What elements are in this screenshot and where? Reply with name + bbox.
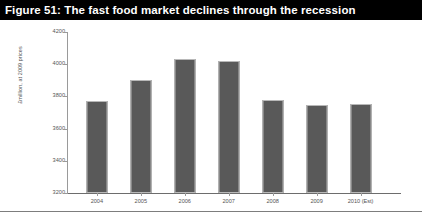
plot-bars (67, 32, 401, 193)
bar-slot (251, 32, 295, 193)
x-tick-mark (185, 193, 186, 196)
x-tick-mark (361, 193, 362, 196)
y-axis-title: £million, at 2009 prices (17, 27, 23, 123)
y-tick-label: 3200 (0, 188, 65, 197)
x-axis-line (67, 193, 401, 194)
bar-slot (339, 32, 383, 193)
bar (218, 61, 239, 193)
x-tick-label: 2007 (207, 196, 251, 206)
figure-title: Figure 51: The fast food market declines… (0, 4, 356, 16)
bar-slot (119, 32, 163, 193)
x-tick-mark (97, 193, 98, 196)
figure-container: Figure 51: The fast food market declines… (0, 0, 422, 218)
x-tick-label: 2009 (295, 196, 339, 206)
x-tick-mark (141, 193, 142, 196)
figure-title-band: Figure 51: The fast food market declines… (0, 0, 422, 20)
bar (262, 100, 283, 193)
x-tick-mark (229, 193, 230, 196)
x-tick-label: 2010 (Est) (339, 196, 383, 206)
bar-slot (295, 32, 339, 193)
bar-slot (207, 32, 251, 193)
bar (306, 105, 327, 193)
bar (130, 80, 151, 193)
bar (86, 101, 107, 193)
x-tick-mark (317, 193, 318, 196)
x-tick-label: 2005 (119, 196, 163, 206)
chart-area: £million, at 2009 prices 320034003600380… (0, 20, 422, 208)
y-tick-label: 3400 (0, 156, 65, 165)
y-tick-label: 4200 (0, 27, 65, 36)
bar-slot (75, 32, 119, 193)
x-tick-label: 2004 (75, 196, 119, 206)
x-tick-label: 2006 (163, 196, 207, 206)
bar (174, 59, 195, 193)
x-tick-mark (273, 193, 274, 196)
bar (350, 104, 371, 193)
x-tick-label: 2008 (251, 196, 295, 206)
bottom-rule (0, 211, 422, 212)
y-tick-label: 3800 (0, 91, 65, 100)
bar-slot (163, 32, 207, 193)
y-tick-label: 4000 (0, 59, 65, 68)
y-tick-label: 3600 (0, 124, 65, 133)
y-tick-mark (64, 193, 68, 194)
